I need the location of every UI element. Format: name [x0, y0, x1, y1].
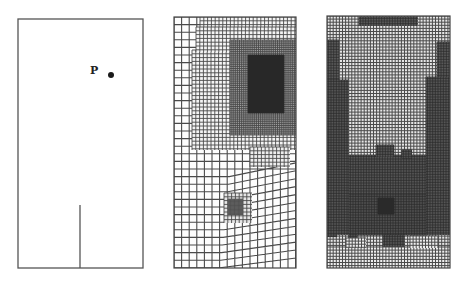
refinement-region	[376, 145, 394, 157]
point-p-marker	[108, 72, 114, 78]
refinement-region	[426, 77, 450, 235]
refinement-region	[327, 40, 339, 80]
refinement-region	[402, 150, 412, 158]
refinement-region	[327, 235, 337, 237]
refinement-region	[437, 42, 450, 77]
refinement-region	[349, 155, 426, 195]
figure: P	[0, 0, 470, 290]
refinement-region	[359, 17, 418, 26]
refinement-region	[327, 80, 349, 235]
refinement-region	[378, 198, 394, 214]
refinement-region	[250, 147, 290, 167]
geometry-panel	[18, 19, 143, 268]
refinement-region	[200, 17, 296, 27]
adapted-mesh-panel-1	[174, 17, 296, 268]
refinement-region	[383, 235, 405, 247]
coarse-region	[410, 236, 438, 248]
refinement-region	[248, 55, 284, 113]
coarse-region	[327, 247, 450, 268]
refinement-region	[228, 199, 243, 215]
figure-canvas	[0, 0, 470, 290]
point-p-label: P	[90, 65, 98, 76]
adapted-mesh-panel-2	[327, 16, 450, 268]
coarse-region	[346, 238, 366, 248]
